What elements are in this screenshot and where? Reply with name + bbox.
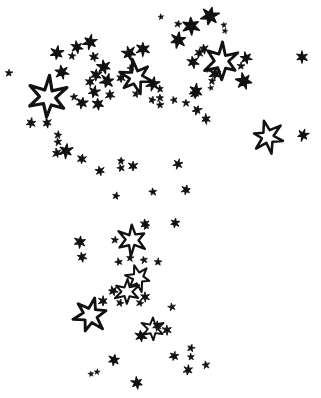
star-filled-icon [53,63,71,81]
star-filled-icon [169,217,182,230]
star-filled-icon [48,44,66,62]
star-filled-icon [201,360,211,370]
star-filled-icon [198,4,221,27]
star-filled-icon [127,160,140,173]
star-filled-icon [98,72,116,90]
star-filled-icon [180,184,193,197]
star-filled-icon [88,67,104,83]
star-filled-icon [84,76,97,89]
star-filled-icon [120,44,138,62]
star-filled-icon [129,375,145,391]
star-filled-icon [95,58,113,76]
star-filled-icon [125,253,135,263]
star-filled-icon [236,61,246,71]
star-filled-icon [151,320,164,333]
star-filled-icon [104,89,117,102]
star-filled-icon [88,51,101,64]
star-filled-icon [179,14,202,37]
star-filled-icon [4,68,14,78]
star-filled-icon [111,191,121,201]
star-filled-icon [94,165,107,178]
star-filled-icon [198,43,211,56]
star-filled-icon [173,19,183,29]
star-filled-icon [207,84,215,92]
star-filled-icon [86,84,102,100]
star-filled-icon [294,49,310,65]
star-filled-icon [193,47,206,60]
star-filled-icon [181,98,191,108]
star-outline-icon [199,38,246,85]
star-filled-icon [53,137,63,147]
star-filled-icon [106,352,122,368]
star-filled-icon [191,104,204,117]
star-filled-icon [53,130,63,140]
star-filled-icon [155,100,165,110]
star-filled-icon [169,95,179,105]
star-filled-icon [51,147,64,160]
star-filled-icon [76,251,89,264]
star-filled-icon [115,72,128,85]
star-filled-icon [157,13,165,21]
star-filled-icon [189,88,202,101]
star-filled-icon [110,235,120,245]
star-filled-icon [69,92,79,102]
star-filled-icon [144,75,162,93]
star-filled-icon [139,218,152,231]
star-filled-icon [155,93,165,103]
star-outline-icon [121,261,155,295]
star-filled-icon [234,71,255,92]
star-filled-icon [25,117,38,130]
star-filled-icon [116,163,126,173]
star-field-canvas [0,0,321,398]
star-filled-icon [207,76,217,86]
star-outline-icon [114,55,158,99]
star-filled-icon [187,82,205,100]
star-filled-icon [200,113,213,126]
star-filled-icon [87,370,95,378]
star-filled-icon [204,66,212,74]
star-filled-icon [207,66,223,82]
star-filled-icon [97,295,110,308]
star-filled-icon [172,158,185,171]
star-filled-icon [238,50,254,66]
star-filled-icon [133,328,149,344]
star-filled-icon [72,234,88,250]
star-filled-icon [74,95,90,111]
star-filled-icon [41,117,54,130]
star-outline-icon [247,116,289,158]
star-filled-icon [221,27,229,35]
star-filled-icon [148,187,158,197]
star-filled-icon [167,302,177,312]
star-filled-icon [168,30,189,51]
star-filled-icon [135,298,145,308]
star-filled-icon [220,21,228,29]
star-outline-icon [67,292,114,339]
star-filled-icon [155,84,165,94]
star-filled-icon [57,142,75,160]
star-filled-icon [107,285,120,298]
star-filled-icon [81,33,99,51]
star-filled-icon [147,95,157,105]
star-outline-icon [113,221,152,260]
star-outline-icon [137,313,168,344]
star-filled-icon [139,291,152,304]
star-filled-icon [161,324,174,337]
star-filled-icon [134,40,152,58]
star-filled-icon [90,96,106,112]
star-filled-icon [182,364,195,377]
star-filled-icon [186,343,196,353]
star-outline-icon [110,275,144,309]
star-filled-icon [116,156,126,166]
star-filled-icon [185,54,201,70]
star-filled-icon [168,350,181,363]
star-filled-icon [126,63,136,73]
star-filled-icon [67,51,77,61]
star-filled-icon [141,221,151,231]
star-filled-icon [76,153,89,166]
star-filled-icon [93,368,101,376]
star-outline-icon [22,71,74,123]
star-filled-icon [115,298,125,308]
star-filled-icon [295,127,311,143]
star-filled-icon [186,352,196,362]
star-filled-icon [69,39,85,55]
